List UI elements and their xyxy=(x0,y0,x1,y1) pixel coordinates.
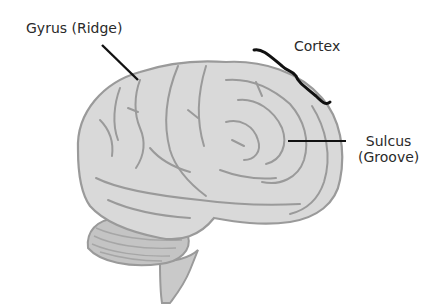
cerebrum xyxy=(78,61,342,239)
brain-diagram: Gyrus (Ridge) Cortex Sulcus (Groove) xyxy=(0,0,444,305)
sulcus-label: Sulcus (Groove) xyxy=(358,133,419,165)
cortex-label: Cortex xyxy=(294,38,340,54)
gyrus-leader-line xyxy=(102,45,138,80)
sulcus-label-meaning: (Groove) xyxy=(358,149,419,165)
sulcus-label-term: Sulcus xyxy=(358,133,419,149)
gyrus-label: Gyrus (Ridge) xyxy=(26,20,122,36)
